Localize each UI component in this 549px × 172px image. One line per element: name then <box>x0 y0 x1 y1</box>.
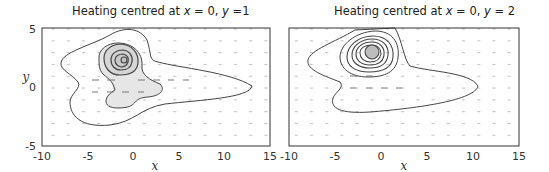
svg-text:0: 0 <box>378 150 385 163</box>
svg-text:5: 5 <box>29 23 36 36</box>
left-x-axis-label: x <box>152 159 159 172</box>
svg-text:5: 5 <box>176 150 183 163</box>
svg-text:10: 10 <box>217 150 231 163</box>
left-plot-area <box>42 28 270 146</box>
left-center-contour <box>121 57 127 63</box>
svg-text:0: 0 <box>29 81 36 94</box>
svg-text:-5: -5 <box>83 150 94 163</box>
svg-text:15: 15 <box>512 150 526 163</box>
right-x-axis-label: x <box>401 159 408 172</box>
svg-text:15: 15 <box>263 150 277 163</box>
left-y-axis-label: y <box>22 70 30 84</box>
right-center-contour <box>365 45 379 59</box>
svg-text:-5: -5 <box>25 140 36 153</box>
right-plot-area <box>289 28 519 146</box>
left-y-ticks: 5 0 -5 <box>25 23 36 153</box>
charts-svg: -10 -5 0 5 10 15 5 0 -5 x y -10 -5 0 5 1… <box>0 0 549 172</box>
svg-text:-10: -10 <box>280 150 298 163</box>
svg-text:0: 0 <box>130 150 137 163</box>
svg-text:10: 10 <box>466 150 480 163</box>
svg-text:5: 5 <box>424 150 431 163</box>
svg-text:-5: -5 <box>330 150 341 163</box>
